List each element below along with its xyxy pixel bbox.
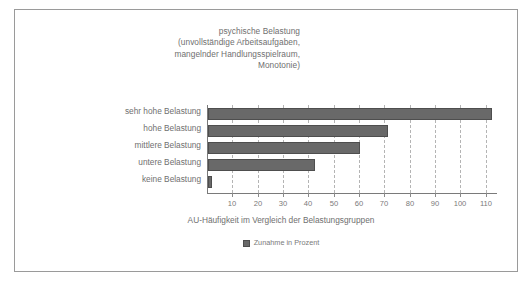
plot-area [207,105,497,193]
tick-20 [258,193,259,197]
category-label-hohe-belastung: hohe Belastung [51,123,201,133]
chart-title: psychische Belastung (unvollständige Arb… [35,26,300,72]
tick-label-30: 30 [271,199,295,208]
tick-label-60: 60 [347,199,371,208]
bar-mittlere-belastung [208,142,360,154]
tick-100 [460,193,461,197]
chart-title-line-2: (unvollständige Arbeitsaufgaben, [35,37,300,48]
tick-label-70: 70 [372,199,396,208]
category-label-keine-belastung: keine Belastung [51,174,201,184]
tick-40 [308,193,309,197]
tick-50 [334,193,335,197]
tick-60 [359,193,360,197]
x-axis-line [207,193,497,194]
chart-title-line-3: mangelnder Handlungsspielraum, [35,49,300,60]
bar-sehr-hohe-belastung [208,108,492,120]
x-axis-title: AU-Häufigkeit im Vergleich der Belastung… [15,215,532,225]
category-label-mittlere-belastung: mittlere Belastung [51,140,201,150]
legend-swatch-zunahme-in-prozent [243,240,250,247]
chart-legend: Zunahme in Prozent [15,238,532,248]
tick-label-90: 90 [423,199,447,208]
chart-title-line-1: psychische Belastung [35,26,300,37]
bar-hohe-belastung [208,125,388,137]
tick-80 [410,193,411,197]
bar-keine-belastung [208,176,212,188]
tick-label-40: 40 [296,199,320,208]
legend-label-zunahme-in-prozent: Zunahme in Prozent [254,238,320,247]
chart-frame: psychische Belastung (unvollständige Arb… [14,9,518,272]
tick-label-50: 50 [322,199,346,208]
chart-title-line-4: Monotonie) [35,60,300,71]
category-axis-labels: sehr hohe Belastung hohe Belastung mittl… [49,105,201,193]
tick-110 [486,193,487,197]
tick-label-10: 10 [220,199,244,208]
tick-label-100: 100 [448,199,472,208]
tick-label-20: 20 [246,199,270,208]
tick-90 [435,193,436,197]
tick-10 [232,193,233,197]
tick-30 [283,193,284,197]
tick-label-110: 110 [474,199,498,208]
category-label-sehr-hohe-belastung: sehr hohe Belastung [51,106,201,116]
bar-untere-belastung [208,159,315,171]
category-label-untere-belastung: untere Belastung [51,157,201,167]
tick-70 [384,193,385,197]
tick-label-80: 80 [398,199,422,208]
